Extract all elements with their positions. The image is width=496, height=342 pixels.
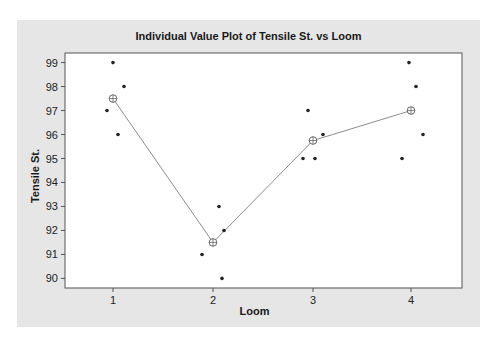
plot-area: 909192939495969798991234: [17, 20, 480, 327]
data-point: [111, 61, 115, 65]
y-tick-label: 92: [46, 224, 58, 236]
data-point: [220, 277, 224, 281]
data-point: [313, 157, 317, 161]
data-point: [321, 133, 325, 137]
y-tick-label: 91: [46, 248, 58, 260]
data-point: [414, 85, 418, 89]
data-point: [301, 157, 305, 161]
x-tick-label: 2: [210, 294, 216, 306]
y-tick-label: 90: [46, 272, 58, 284]
data-point: [222, 229, 226, 233]
x-tick-label: 3: [310, 294, 316, 306]
data-point: [200, 253, 204, 257]
data-point: [400, 157, 404, 161]
data-point: [116, 133, 120, 137]
data-point: [421, 133, 425, 137]
data-point: [217, 205, 221, 209]
data-point: [306, 109, 310, 113]
chart-frame: Individual Value Plot of Tensile St. vs …: [17, 20, 480, 327]
x-tick-label: 4: [408, 294, 414, 306]
y-tick-label: 97: [46, 105, 58, 117]
y-tick-label: 99: [46, 57, 58, 69]
y-tick-label: 95: [46, 153, 58, 165]
data-point: [122, 85, 126, 89]
y-tick-label: 98: [46, 81, 58, 93]
data-point: [105, 109, 109, 113]
y-tick-label: 96: [46, 129, 58, 141]
x-tick-label: 1: [110, 294, 116, 306]
y-tick-label: 94: [46, 176, 58, 188]
y-tick-label: 93: [46, 200, 58, 212]
data-point: [407, 61, 411, 65]
